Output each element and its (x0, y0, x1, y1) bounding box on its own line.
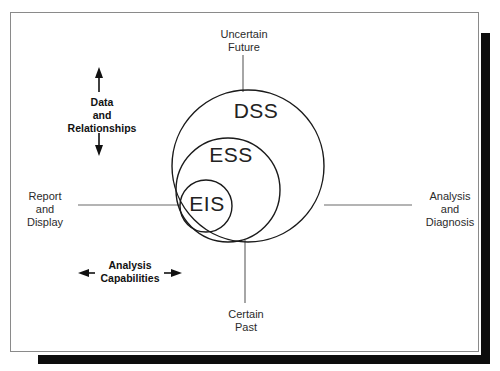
axis-horizontal-line1: Analysis (108, 259, 151, 271)
axis-vertical-line1: Data (91, 96, 114, 108)
diagram-page: DSS ESS EIS UncertainFuture CertainPast … (0, 0, 500, 371)
callout-right-line3: Diagnosis (426, 216, 474, 228)
callout-left-line1: Report (28, 190, 61, 202)
callout-bottom-line1: Certain (228, 308, 263, 320)
callout-right-line1: Analysis (430, 190, 471, 202)
axis-horizontal-right-head (171, 269, 182, 277)
axis-vertical-up-head (95, 67, 103, 78)
callout-bottom-line2: Past (235, 321, 257, 333)
axis-vertical-line2: and (93, 109, 112, 121)
axis-vertical-down-head (95, 145, 103, 156)
callout-bottom-label: CertainPast (205, 308, 287, 334)
axis-vertical-line3: Relationships (68, 122, 137, 134)
axis-horizontal-label: AnalysisCapabilities (88, 259, 172, 285)
callout-top-line2: Future (228, 41, 260, 53)
circle-label-eis: EIS (180, 193, 234, 214)
callout-right-line2: and (441, 203, 459, 215)
callout-top-line1: Uncertain (220, 28, 267, 40)
callout-top-label: UncertainFuture (203, 28, 285, 54)
callout-left-line2: and (36, 203, 54, 215)
callout-right-label: AnalysisandDiagnosis (414, 190, 486, 229)
circle-label-dss: DSS (225, 100, 287, 121)
axis-vertical-label: DataandRelationships (52, 96, 152, 135)
callout-left-line3: Display (27, 216, 63, 228)
callout-left-label: ReportandDisplay (14, 190, 76, 229)
axis-horizontal-line2: Capabilities (101, 272, 160, 284)
circle-label-ess: ESS (200, 144, 262, 165)
